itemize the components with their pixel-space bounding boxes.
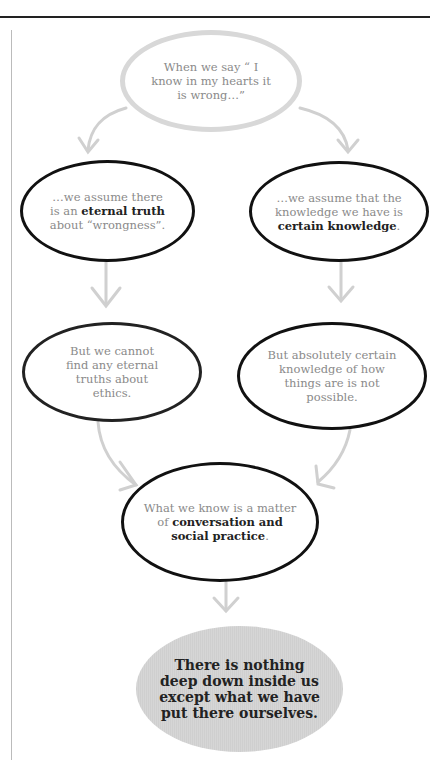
node-conversation: What we know is a matter of conversation…	[121, 462, 319, 582]
node-conclusion-text: There is nothing deep down inside us exc…	[155, 657, 325, 721]
node-certain-knowledge: …we assume that the knowledge we have is…	[249, 161, 429, 262]
node-no-certain-knowledge-text: But absolutely certain knowledge of how …	[260, 348, 405, 404]
node-start: When we say “ I know in my hearts it is …	[120, 30, 302, 132]
node-eternal-truth: …we assume there is an eternal truth abo…	[20, 160, 195, 262]
node-conclusion: There is nothing deep down inside us exc…	[136, 626, 343, 752]
node-no-eternal-truths-text: But we cannot find any eternal truths ab…	[57, 344, 167, 400]
node-conversation-text: What we know is a matter of conversation…	[140, 501, 300, 543]
node-start-text: When we say “ I know in my hearts it is …	[151, 60, 271, 102]
node-no-eternal-truths: But we cannot find any eternal truths ab…	[22, 322, 202, 422]
node-eternal-truth-text: …we assume there is an eternal truth abo…	[48, 190, 168, 232]
node-no-certain-knowledge: But absolutely certain knowledge of how …	[237, 322, 427, 430]
node-certain-knowledge-text: …we assume that the knowledge we have is…	[274, 191, 404, 233]
